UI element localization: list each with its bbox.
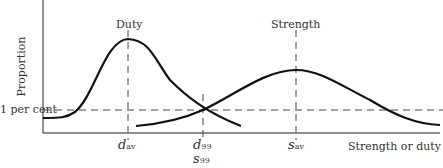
av-subscript: av [126,142,135,151]
s-symbol: s [193,151,200,166]
strength-curve [136,70,440,126]
99-subscript: 99 [200,156,210,165]
d-av-label: dav [118,137,136,152]
99-subscript: 99 [201,142,211,151]
s-symbol: s [288,137,295,152]
s-av-label: sav [288,137,304,152]
d99-label: d99 [193,137,212,152]
strength-label: Strength [271,18,320,31]
y-axis-label: Proportion [15,37,28,97]
duty-label: Duty [116,18,143,31]
av-subscript: av [295,142,304,151]
x-axis-label: Strength or duty [348,140,441,153]
duty-curve [43,39,241,126]
one-percent-label: 1 per cent [0,103,57,116]
s99-label: s99 [193,151,210,166]
